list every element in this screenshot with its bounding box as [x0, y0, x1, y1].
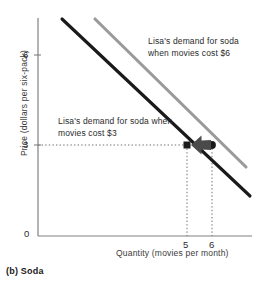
origin-label: 0	[24, 228, 29, 239]
y-tick-label-6: 6	[23, 49, 28, 60]
figure-soda-demand: Price (dollars per six-pack) Quantity (m…	[0, 0, 264, 283]
figure-caption: (b) Soda	[6, 266, 44, 276]
annotation-demand-movies-cost-3: Lisa's demand for soda when movies cost …	[58, 116, 178, 139]
x-tick-label-6: 6	[209, 239, 214, 250]
x-tick-label-5: 5	[183, 239, 188, 250]
shift-arrow-icon	[191, 136, 211, 155]
point-marker-quantity-5	[184, 142, 191, 149]
annotation-demand-movies-cost-6: Lisa's demand for soda when movies cost …	[148, 36, 248, 59]
y-tick-label-3: 3	[23, 139, 28, 150]
